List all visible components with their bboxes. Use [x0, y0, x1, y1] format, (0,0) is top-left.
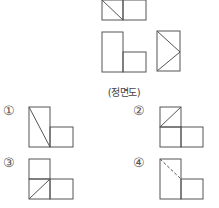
- side-view: [157, 31, 180, 71]
- option-2-figure[interactable]: [160, 107, 203, 147]
- option-4-label[interactable]: ④: [133, 155, 145, 170]
- front-view: [102, 32, 146, 72]
- option-3-label[interactable]: ③: [3, 155, 15, 170]
- option-1-label[interactable]: ①: [3, 103, 15, 118]
- front-view-caption: (정면도): [103, 84, 145, 99]
- top-view: [102, 0, 146, 20]
- option-3-figure[interactable]: [29, 159, 73, 199]
- option-2-label[interactable]: ②: [133, 103, 145, 118]
- option-1-figure[interactable]: [29, 107, 73, 147]
- option-4-figure[interactable]: [160, 159, 203, 199]
- orthographic-projection-diagram: [0, 0, 219, 208]
